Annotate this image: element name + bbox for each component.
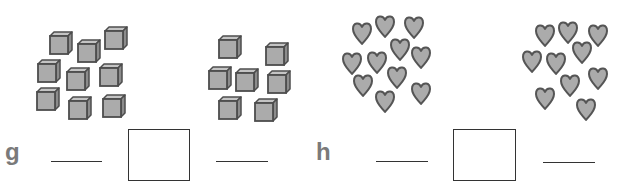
heart-icon [376, 16, 394, 37]
answer-blank-right-h[interactable] [543, 162, 595, 163]
heart-icon [523, 51, 541, 72]
heart-icon [354, 75, 372, 96]
heart-icon [573, 42, 591, 63]
comparison-box-h[interactable] [453, 129, 516, 181]
problem-label-h: h [316, 140, 331, 164]
heart-icon [536, 88, 554, 109]
heart-icon [412, 83, 430, 104]
heart-group-left [343, 16, 430, 112]
heart-icon [405, 17, 423, 38]
heart-icon [536, 25, 554, 46]
heart-icon [343, 53, 361, 74]
heart-groups [0, 0, 620, 190]
heart-icon [412, 47, 430, 68]
heart-icon [589, 25, 607, 46]
heart-icon [368, 52, 386, 73]
heart-icon [353, 23, 371, 44]
heart-group-right [523, 22, 607, 120]
heart-icon [376, 91, 394, 112]
heart-icon [388, 67, 406, 88]
heart-icon [589, 68, 607, 89]
heart-icon [559, 22, 577, 43]
heart-icon [547, 53, 565, 74]
answer-blank-left-h[interactable] [376, 161, 428, 162]
heart-icon [561, 75, 579, 96]
heart-icon [577, 99, 595, 120]
heart-icon [391, 39, 409, 60]
